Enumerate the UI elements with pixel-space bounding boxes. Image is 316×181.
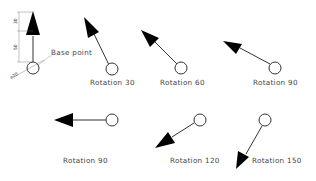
- base-point-label: Base point: [51, 48, 92, 57]
- arrow-rotation-120: Rotation 120: [155, 114, 220, 165]
- dim-shaft: 50: [13, 44, 18, 50]
- arrow-rotation-90-top: Rotation 90: [223, 41, 298, 87]
- dim-head: 30: [13, 18, 18, 24]
- label-rotation-150: Rotation 150: [252, 156, 302, 165]
- label-rotation-60: Rotation 60: [160, 78, 205, 87]
- arrow-rotation-150: Rotation 150: [236, 114, 302, 169]
- arrow-rotation-60: Rotation 60: [141, 30, 205, 87]
- diagram-canvas: 30 50 ⌀20 Base point Rotation 30 Rotatio…: [0, 0, 316, 181]
- arrow-rotation-90: Rotation 90: [54, 113, 118, 165]
- label-rotation-30: Rotation 30: [90, 78, 135, 87]
- label-rotation-90-top: Rotation 90: [253, 78, 298, 87]
- reference-arrow: 30 50 ⌀20 Base point: [9, 11, 92, 80]
- label-rotation-90: Rotation 90: [63, 156, 108, 165]
- dim-circle: ⌀20: [9, 71, 19, 80]
- label-rotation-120: Rotation 120: [170, 156, 220, 165]
